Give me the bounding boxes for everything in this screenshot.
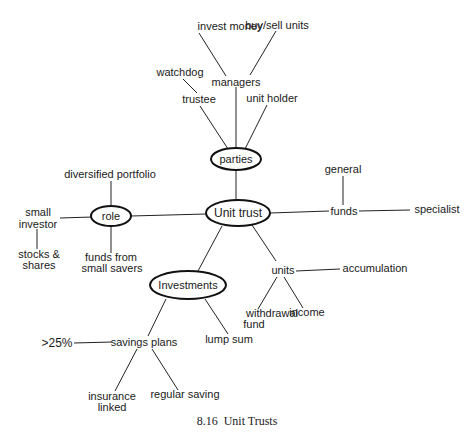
node-role: role <box>91 206 131 226</box>
investments-label: Investments <box>158 279 218 291</box>
edge-role-unittrust <box>131 214 206 216</box>
edge-savings-regular <box>152 349 178 390</box>
unit-trust-label: Unit trust <box>214 206 263 220</box>
accumulation-label: accumulation <box>343 262 408 274</box>
edge-unittrust-investments <box>198 226 222 271</box>
edge-units-income <box>284 277 303 308</box>
edge-trustee-parties <box>200 106 228 149</box>
funds-label: funds <box>331 205 358 217</box>
small-investor-label-line2: investor <box>19 218 58 230</box>
lump-sum-label: lump sum <box>205 333 253 345</box>
role-label: role <box>102 210 120 222</box>
edge-buysell-managers <box>250 31 276 75</box>
edge-units-accumulation <box>296 269 340 271</box>
node-investments: Investments <box>150 271 226 299</box>
gt-25-percent-label: >25% <box>41 336 72 350</box>
mind-map-canvas: parties Unit trust role Investments inve… <box>0 0 473 442</box>
node-unit-trust: Unit trust <box>206 200 270 226</box>
stocks-shares-label-line2: shares <box>22 259 56 271</box>
edge-investments-lumpsum <box>205 299 228 334</box>
edge-gt25-savings <box>74 342 112 343</box>
trustee-label: trustee <box>182 93 216 105</box>
edge-unittrust-units <box>252 225 276 261</box>
edge-unittrust-funds <box>270 211 329 213</box>
edge-units-withdrawal <box>258 277 277 309</box>
unit-trust-mind-map: parties Unit trust role Investments inve… <box>0 0 473 442</box>
regular-saving-label: regular saving <box>150 388 219 400</box>
edge-watchdog-trustee <box>183 79 197 93</box>
parties-label: parties <box>219 153 253 165</box>
edge-smallinvestor-role <box>60 217 92 218</box>
edge-investments-savings <box>148 299 166 336</box>
diversified-portfolio-label: diversified portfolio <box>64 168 156 180</box>
withdrawal-fund-label-line2: fund <box>243 318 264 330</box>
node-parties: parties <box>211 148 261 170</box>
managers-label: managers <box>212 76 261 88</box>
edge-funds-specialist <box>359 210 410 211</box>
edge-savings-insurance <box>115 349 137 391</box>
units-label: units <box>271 264 295 276</box>
insurance-linked-label-line2: linked <box>98 401 127 413</box>
buy-sell-units-label: buy/sell units <box>245 19 309 31</box>
figure-caption: 8.16 Unit Trusts <box>197 414 278 428</box>
general-label: general <box>325 163 362 175</box>
specialist-label: specialist <box>414 203 459 215</box>
small-investor-label-line1: small <box>25 206 51 218</box>
income-label: income <box>289 306 324 318</box>
savings-plans-label: savings plans <box>111 336 178 348</box>
edge-unitholder-parties <box>245 105 267 149</box>
watchdog-label: watchdog <box>155 66 203 78</box>
funds-from-small-savers-label-line2: small savers <box>81 262 143 274</box>
unit-holder-label: unit holder <box>246 92 298 104</box>
